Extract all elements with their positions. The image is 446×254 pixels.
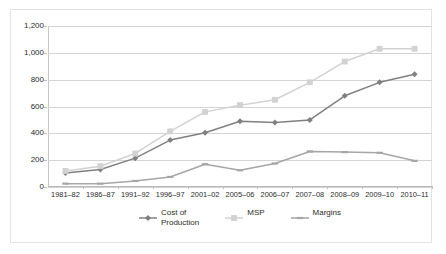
data-point-marker [203, 109, 208, 114]
y-axis-tick-label: 1,000 [24, 49, 44, 57]
data-point-marker [377, 46, 382, 51]
data-point-marker [63, 169, 68, 174]
y-axis-tickmark [44, 80, 47, 81]
y-axis-tick-label: 400 [31, 129, 44, 137]
chart-legend: Cost ofProductionMSPMargins [48, 208, 432, 234]
plot-area [48, 26, 432, 187]
x-axis-tick-label: 1986–87 [86, 190, 115, 199]
data-point-marker [412, 71, 418, 77]
y-axis-tickmark [44, 107, 47, 108]
data-point-marker [342, 151, 348, 153]
x-axis-tickmark [432, 186, 433, 189]
y-axis-tickmark [44, 26, 47, 27]
data-point-marker [97, 183, 103, 185]
y-axis-labels: 02004006008001,0001,200 [10, 26, 44, 187]
data-point-marker [98, 164, 103, 169]
gridline [48, 187, 432, 188]
x-axis-tick-label: 1991–92 [121, 190, 150, 199]
data-point-marker [237, 169, 243, 171]
x-axis-labels: 1981–821986–871991–921996–972001–022005–… [48, 190, 432, 202]
legend-label: Margins [313, 208, 341, 218]
series-layer [48, 26, 432, 187]
data-point-marker [168, 129, 173, 134]
x-axis-tick-label: 2007–08 [295, 190, 324, 199]
data-point-marker [272, 120, 278, 126]
data-point-marker [342, 59, 347, 64]
data-point-marker [296, 217, 302, 219]
data-point-marker [145, 215, 151, 221]
data-point-marker [307, 80, 312, 85]
legend-item-msp[interactable]: MSP [225, 208, 264, 219]
data-point-marker [133, 151, 138, 156]
x-axis-tick-label: 1981–82 [51, 190, 80, 199]
legend-item-margins[interactable]: Margins [291, 208, 341, 219]
x-axis-tick-label: 1996–97 [156, 190, 185, 199]
x-axis-tick-label: 2008–09 [330, 190, 359, 199]
y-axis-tick-label: 1,200 [24, 22, 44, 30]
data-point-marker [238, 103, 243, 108]
data-point-marker [273, 97, 278, 102]
data-point-marker [167, 176, 173, 178]
x-axis-tick-label: 2009–10 [365, 190, 394, 199]
legend-marker-icon [291, 209, 309, 219]
x-axis-tick-label: 2001–02 [191, 190, 220, 199]
data-point-marker [202, 130, 208, 136]
data-point-marker [202, 163, 208, 165]
y-axis-tick-label: 200 [31, 156, 44, 164]
series-margins [62, 150, 417, 184]
data-point-marker [237, 118, 243, 124]
legend-marker-icon [139, 209, 157, 219]
legend-label: MSP [247, 208, 264, 218]
y-axis-tick-label: 600 [31, 103, 44, 111]
data-point-marker [377, 79, 383, 85]
legend-label: Cost ofProduction [161, 208, 199, 227]
y-axis-tickmark [44, 187, 47, 188]
data-point-marker [132, 180, 138, 182]
data-point-marker [376, 152, 382, 154]
series-line [65, 151, 414, 183]
legend-item-cost-of-production[interactable]: Cost ofProduction [139, 208, 199, 227]
legend-marker-icon [225, 209, 243, 219]
series-msp [63, 46, 417, 173]
data-point-marker [272, 162, 278, 164]
y-axis-tickmark [44, 133, 47, 134]
x-axis-tick-label: 2006–07 [261, 190, 290, 199]
y-axis-tick-label: 800 [31, 76, 44, 84]
x-axis-tick-label: 2005–06 [226, 190, 255, 199]
y-axis-tickmark [44, 160, 47, 161]
data-point-marker [62, 183, 68, 185]
data-point-marker [232, 216, 237, 221]
data-point-marker [167, 137, 173, 143]
y-axis-tickmark [44, 53, 47, 54]
x-axis-tick-label: 2010–11 [400, 190, 428, 199]
data-point-marker [307, 150, 313, 152]
data-point-marker [412, 46, 417, 51]
data-point-marker [411, 160, 417, 162]
